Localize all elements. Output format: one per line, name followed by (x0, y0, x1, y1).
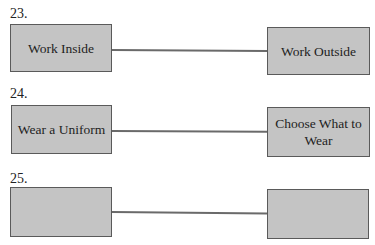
right-box-23: Work Outside (267, 27, 370, 75)
item-number-23: 23. (10, 7, 28, 21)
connector-line-25 (112, 211, 267, 214)
right-box-25[interactable] (267, 189, 369, 239)
right-box-24: Choose What to Wear (267, 107, 370, 157)
item-number-25: 25. (10, 172, 28, 186)
connector-line-23 (112, 49, 267, 52)
left-box-25[interactable] (10, 187, 112, 237)
connector-line-24 (112, 130, 267, 132)
item-number-24: 24. (10, 87, 28, 101)
left-box-24: Wear a Uniform (11, 105, 112, 154)
left-box-23: Work Inside (10, 24, 112, 72)
